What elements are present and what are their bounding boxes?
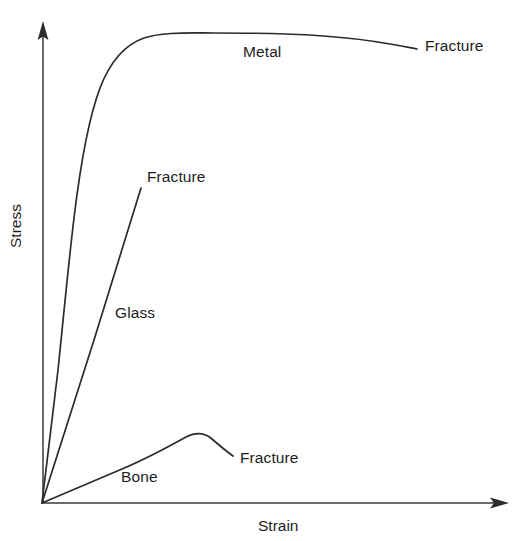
curve-metal xyxy=(42,33,417,503)
curve-label-metal: Metal xyxy=(243,44,281,60)
curve-glass xyxy=(42,188,141,503)
y-axis-title: Stress xyxy=(8,204,24,248)
curve-label-glass: Glass xyxy=(115,305,155,321)
fracture-label-metal: Fracture xyxy=(425,38,484,54)
curve-label-bone: Bone xyxy=(121,469,158,485)
x-axis-title: Strain xyxy=(258,518,299,534)
fracture-label-bone: Fracture xyxy=(240,450,299,466)
fracture-label-glass: Fracture xyxy=(147,169,206,185)
stress-strain-figure: Stress Strain Metal Fracture Fracture Gl… xyxy=(0,0,520,541)
